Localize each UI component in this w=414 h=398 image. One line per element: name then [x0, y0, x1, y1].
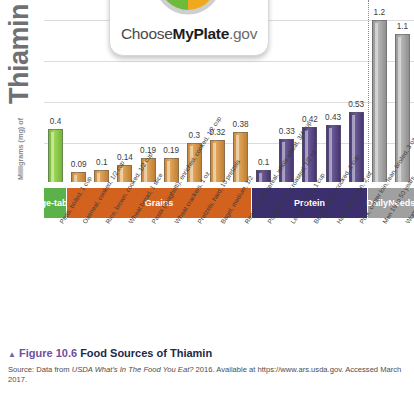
myplate-name: MyPlate	[173, 25, 229, 42]
daily-needs-divider	[368, 0, 369, 184]
bar-highlight	[375, 23, 378, 184]
y-axis-title: Thiamin Milligrams (mg) of	[0, 0, 36, 200]
y-axis-title-main: Thiamin	[1, 0, 37, 109]
bar-highlight	[352, 115, 355, 184]
bar-value-label: 0.43	[318, 113, 348, 123]
source-prefix: Source: Data from	[8, 365, 72, 374]
bar-highlight	[213, 143, 216, 184]
bar-vegetables	[48, 129, 63, 184]
bar-protein	[326, 125, 341, 184]
source-citation: USDA What's In The Food You Eat?	[72, 365, 194, 374]
bar-protein	[349, 112, 364, 184]
figure-thiamin-food-sources: Thiamin Milligrams (mg) of 0.40.090.10.1…	[0, 0, 414, 398]
myplate-choose: Choose	[121, 25, 173, 42]
bar-value-label: 0.1	[249, 158, 279, 168]
bar-value-label: 0.19	[156, 146, 186, 156]
bar-highlight	[167, 161, 170, 184]
bar-highlight	[329, 128, 332, 184]
caption-marker-icon: ▲	[8, 350, 16, 359]
x-axis-tick-labels: Peas, boiled, 1 cupOatmeal, cooked, 1/2 …	[44, 219, 414, 339]
myplate-logo: ChooseMyPlate.gov	[109, 0, 269, 56]
bar-value-label: 0.38	[226, 120, 256, 130]
plate-icon	[136, 0, 240, 25]
myplate-wordmark: ChooseMyPlate.gov	[110, 25, 268, 43]
caption-figure-number: Figure 10.6	[19, 347, 77, 359]
bar-value-label: 1.1	[387, 22, 414, 32]
bar-value-label: 0.53	[341, 100, 371, 110]
y-axis-title-units: Milligrams (mg) of	[14, 106, 28, 192]
bar-daily_needs	[372, 20, 387, 184]
bar-value-label: 0.4	[41, 117, 71, 127]
myplate-gov: .gov	[229, 25, 257, 42]
caption-source: Source: Data from USDA What's In The Foo…	[8, 365, 408, 384]
figure-caption: ▲ Figure 10.6 Food Sources of Thiamin So…	[8, 346, 408, 384]
caption-title: Food Sources of Thiamin	[80, 347, 212, 359]
bar-highlight	[51, 132, 54, 184]
bar-value-label: 1.2	[364, 8, 394, 18]
